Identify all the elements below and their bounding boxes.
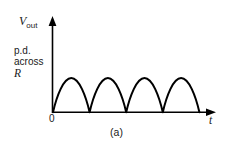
rectified-waveform-curve — [53, 78, 199, 112]
pd-resistor-symbol: R — [14, 67, 43, 80]
pd-line-1: p.d. — [14, 45, 43, 56]
x-axis-label: t — [209, 114, 212, 127]
pd-across-r-annotation: p.d. across R — [14, 45, 43, 80]
y-axis-label: Vout — [19, 15, 37, 31]
y-axis-arrowhead — [49, 16, 57, 26]
y-axis-subscript: out — [26, 21, 37, 30]
rectifier-output-figure: Vout p.d. across R 0 t (a) — [0, 0, 233, 149]
origin-label: 0 — [49, 113, 55, 124]
figure-caption: (a) — [0, 127, 233, 139]
pd-line-2: across — [14, 56, 43, 67]
